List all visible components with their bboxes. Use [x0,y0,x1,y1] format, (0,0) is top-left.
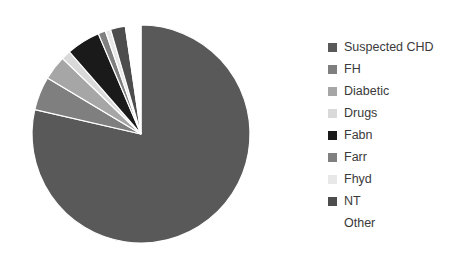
legend-item[interactable]: Fabn [328,124,454,146]
legend-item[interactable]: Fhyd [328,168,454,190]
legend-swatch-icon [328,109,337,118]
legend-item-label: NT [344,194,361,208]
legend-item[interactable]: Suspected CHD [328,36,454,58]
legend-item-label: Suspected CHD [344,40,434,54]
pie-svg [18,14,268,259]
legend-item[interactable]: Farr [328,146,454,168]
legend-item-label: Drugs [344,106,377,120]
legend-swatch-icon [328,153,337,162]
legend-item[interactable]: Other [328,212,454,234]
legend-item-label: Farr [344,150,367,164]
legend-item[interactable]: NT [328,190,454,212]
legend-item[interactable]: Diabetic [328,80,454,102]
legend-item[interactable]: Drugs [328,102,454,124]
legend-swatch-icon [328,197,337,206]
legend-swatch-icon [328,175,337,184]
legend-item-label: Other [344,216,375,230]
pie-chart-figure: Suspected CHDFHDiabeticDrugsFabnFarrFhyd… [0,0,457,265]
legend-item-label: Fhyd [344,172,372,186]
legend-swatch-icon [328,87,337,96]
legend-swatch-icon [328,219,337,228]
legend-swatch-icon [328,131,337,140]
legend-swatch-icon [328,65,337,74]
legend-item-label: Diabetic [344,84,389,98]
legend-item-label: Fabn [344,128,373,142]
chart-legend: Suspected CHDFHDiabeticDrugsFabnFarrFhyd… [328,36,454,234]
pie-plot-area [18,14,268,259]
legend-swatch-icon [328,43,337,52]
legend-item-label: FH [344,62,361,76]
legend-item[interactable]: FH [328,58,454,80]
pie-slice-group [32,25,250,243]
